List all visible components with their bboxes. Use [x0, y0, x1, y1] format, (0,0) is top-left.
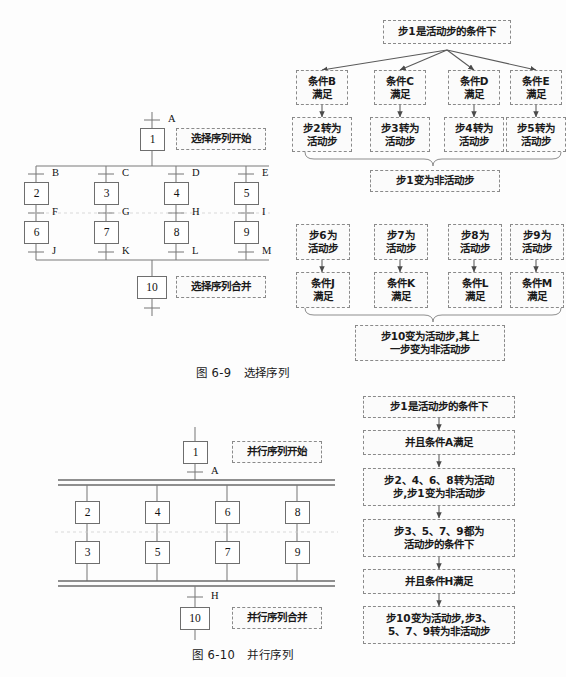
step-label: 6: [34, 227, 40, 239]
step-label: 1: [193, 447, 199, 459]
transition-label-l: L: [192, 246, 198, 257]
flow-condition-e: 条件E 满足: [510, 70, 562, 105]
step-label: 2: [34, 188, 40, 200]
parallel-step-box-3[interactable]: 3: [75, 541, 100, 564]
note-selection-merge: 选择序列合并: [176, 276, 266, 298]
transition-label-d: D: [192, 168, 200, 179]
parallel-transition-label-a: A: [211, 466, 219, 477]
flow-state-step9: 步9为 活动步: [510, 224, 564, 260]
flow-action-step4: 步4转为 活动步: [444, 117, 504, 152]
step-box-2[interactable]: 2: [24, 182, 49, 205]
step-label: 4: [174, 188, 180, 200]
parallel-step-box-4[interactable]: 4: [145, 501, 170, 524]
flow-action-step5: 步5转为 活动步: [506, 117, 566, 152]
flow-condition-j: 条件J 满足: [296, 272, 350, 308]
note-selection-start: 选择序列开始: [176, 128, 266, 150]
step-box-7[interactable]: 7: [94, 221, 119, 244]
step-label: 6: [225, 507, 231, 519]
flow-condition-m: 条件M 满足: [510, 272, 564, 308]
flow-root-condition: 步1是活动步的条件下: [383, 20, 511, 44]
step-label: 7: [225, 547, 231, 559]
parallel-step-box-6[interactable]: 6: [215, 501, 240, 524]
transition-label-g: G: [122, 207, 130, 218]
step-box-1[interactable]: 1: [140, 128, 165, 151]
transition-label-h: H: [192, 207, 200, 218]
note-parallel-merge: 并行序列合并: [232, 607, 322, 629]
step-label: 3: [85, 547, 91, 559]
step-box-3[interactable]: 3: [94, 182, 119, 205]
transition-label-j: J: [52, 246, 56, 257]
flow-state-step8: 步8为 活动步: [448, 224, 502, 260]
transition-label-f: F: [52, 207, 58, 218]
flow-condition-l: 条件L 满足: [448, 272, 502, 308]
step-label: 8: [174, 227, 180, 239]
flow-condition-c: 条件C 满足: [374, 70, 426, 105]
step-box-4[interactable]: 4: [164, 182, 189, 205]
parallel-step-box-8[interactable]: 8: [285, 501, 310, 524]
parallel-flow-step-6: 步10变为活动步,步3、 5、7、9转为非活动步: [363, 606, 515, 644]
step-label: 2: [85, 507, 91, 519]
parallel-step-box-2[interactable]: 2: [75, 501, 100, 524]
step-box-10[interactable]: 10: [137, 276, 167, 299]
step-label: 3: [104, 188, 110, 200]
flow-action-step3: 步3转为 活动步: [370, 117, 430, 152]
figure-caption-6-9: 图 6-9 选择序列: [196, 364, 289, 380]
flow-action-step2: 步2转为 活动步: [292, 117, 352, 152]
step-label: 9: [244, 227, 250, 239]
transition-label-k: K: [122, 246, 130, 257]
transition-label-c: C: [122, 168, 129, 179]
step-box-8[interactable]: 8: [164, 221, 189, 244]
step-label: 4: [155, 507, 161, 519]
transition-label-b: B: [52, 168, 59, 179]
flow-result-step10-active: 步10变为活动步,其上 一步变为非活动步: [355, 325, 505, 361]
step-label: 10: [189, 613, 201, 625]
parallel-flow-step-4: 步3、5、7、9都为 活动步的条件下: [363, 519, 515, 557]
parallel-flow-step-3: 步2、4、6、8转为活动 步,步1变为非活动步: [363, 468, 515, 506]
step-box-5[interactable]: 5: [234, 182, 259, 205]
step-label: 1: [150, 134, 156, 146]
step-box-6[interactable]: 6: [24, 221, 49, 244]
step-label: 10: [146, 282, 158, 294]
transition-label-m: M: [262, 246, 271, 257]
parallel-step-box-5[interactable]: 5: [145, 541, 170, 564]
step-label: 5: [155, 547, 161, 559]
flow-state-step6: 步6为 活动步: [296, 224, 350, 260]
step-label: 5: [244, 188, 250, 200]
parallel-flow-step-1: 步1是活动步的条件下: [363, 396, 515, 418]
note-parallel-start: 并行序列开始: [232, 441, 322, 463]
parallel-flow-step-5: 并且条件H满足: [363, 569, 515, 594]
parallel-step-box-1[interactable]: 1: [183, 441, 208, 464]
transition-label-e: E: [262, 168, 268, 179]
flow-condition-d: 条件D 满足: [448, 70, 500, 105]
flow-condition-k: 条件K 满足: [374, 272, 428, 308]
flow-condition-b: 条件B 满足: [296, 70, 348, 105]
figure-caption-6-10: 图 6-10 并行序列: [192, 646, 293, 662]
parallel-step-box-9[interactable]: 9: [285, 541, 310, 564]
flow-result-step1-inactive: 步1变为非活动步: [370, 170, 500, 192]
step-label: 9: [295, 547, 301, 559]
parallel-step-box-10[interactable]: 10: [180, 607, 210, 630]
transition-label-a: A: [168, 114, 176, 125]
step-label: 7: [104, 227, 110, 239]
parallel-flow-step-2: 并且条件A满足: [363, 430, 515, 455]
step-box-9[interactable]: 9: [234, 221, 259, 244]
transition-label-i: I: [262, 207, 266, 218]
step-label: 8: [295, 507, 301, 519]
parallel-step-box-7[interactable]: 7: [215, 541, 240, 564]
parallel-transition-label-h: H: [211, 591, 219, 602]
flow-state-step7: 步7为 活动步: [374, 224, 428, 260]
